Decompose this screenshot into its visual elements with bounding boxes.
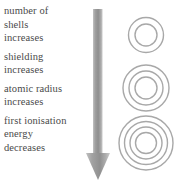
trend-line: increases	[4, 63, 86, 77]
trend-line: first ionisation	[4, 114, 86, 128]
atom-4-shells	[116, 112, 176, 174]
trend-line: energy	[4, 127, 86, 141]
trend-item-first-ionisation-energy: first ionisation energy decreases	[4, 114, 86, 155]
downward-arrow-icon	[82, 6, 116, 186]
trend-item-shielding: shielding increases	[4, 50, 86, 77]
trend-line: increases	[4, 31, 86, 45]
trend-line: decreases	[4, 141, 86, 155]
trend-line: atomic radius	[4, 82, 86, 96]
trend-line: number of	[4, 4, 86, 18]
trend-item-atomic-radius: atomic radius increases	[4, 82, 86, 109]
atom-3-shells	[118, 60, 174, 116]
trend-line: increases	[4, 95, 86, 109]
trend-line: shielding	[4, 50, 86, 64]
trend-diagram: number of shells increases shielding inc…	[0, 0, 176, 193]
atom-2-shells	[118, 6, 174, 64]
trend-item-number-of-shells: number of shells increases	[4, 4, 86, 45]
trend-line: shells	[4, 18, 86, 32]
trend-label-list: number of shells increases shielding inc…	[4, 4, 86, 159]
